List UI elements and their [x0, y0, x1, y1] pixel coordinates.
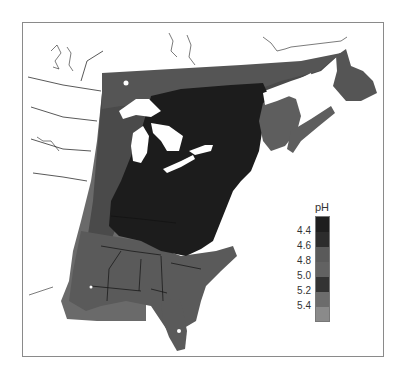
ph-legend: pH 4.4 4.6 4.8 5.0 5.2 5.4: [283, 201, 343, 331]
legend-label: 4.4: [297, 225, 311, 237]
legend-color-bar: [315, 216, 330, 322]
legend-swatch-5: [316, 277, 329, 292]
legend-label: 5.4: [297, 300, 311, 312]
legend-swatch-2: [316, 232, 329, 247]
station-dot: [79, 111, 82, 114]
legend-label: 4.8: [297, 255, 311, 267]
map-frame: pH 4.4 4.6 4.8 5.0 5.2 5.4: [22, 22, 384, 357]
legend-label: 5.0: [297, 270, 311, 282]
station-dot: [80, 83, 84, 87]
legend-label: 5.2: [297, 285, 311, 297]
legend-swatch-6: [316, 292, 329, 307]
legend-swatch-1: [316, 217, 329, 232]
legend-label: 4.6: [297, 240, 311, 252]
station-dot: [90, 286, 93, 289]
station-dot: [124, 81, 129, 86]
legend-swatch-7: [316, 307, 329, 321]
legend-title: pH: [315, 201, 329, 213]
station-dot: [177, 329, 181, 333]
legend-swatch-4: [316, 262, 329, 277]
region-newfoundland: [333, 49, 377, 101]
legend-swatch-3: [316, 247, 329, 262]
